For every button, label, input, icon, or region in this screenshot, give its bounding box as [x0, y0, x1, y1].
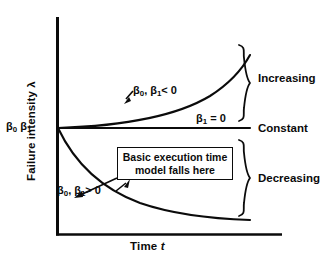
- increasing-curve-annotation: β0, β1< 0: [133, 85, 177, 98]
- constant-line-annotation: β1 = 0: [196, 113, 226, 126]
- intercept-label: β0 β1: [6, 121, 31, 134]
- model-callout-line2: model falls here: [135, 164, 215, 176]
- region-label-constant: Constant: [258, 122, 308, 134]
- region-label-increasing: Increasing: [258, 72, 316, 84]
- x-axis-title-word: Time: [130, 240, 161, 252]
- failure-intensity-figure: Failure intensity λ Time t β0 β1 β0, β1<…: [0, 0, 330, 259]
- decreasing-annotation-arrow: [116, 179, 130, 191]
- x-axis-title-variable: t: [161, 240, 165, 252]
- model-callout-line1: Basic execution time: [123, 151, 227, 163]
- increasing-annotation-arrow: [124, 91, 133, 104]
- decreasing-curve-annotation: β0, β1> 0: [57, 185, 101, 198]
- x-axis-title: Time t: [130, 240, 165, 252]
- region-label-decreasing: Decreasing: [258, 172, 320, 184]
- model-callout-box: Basic execution time model falls here: [117, 147, 233, 180]
- decreasing-brace: [239, 140, 250, 216]
